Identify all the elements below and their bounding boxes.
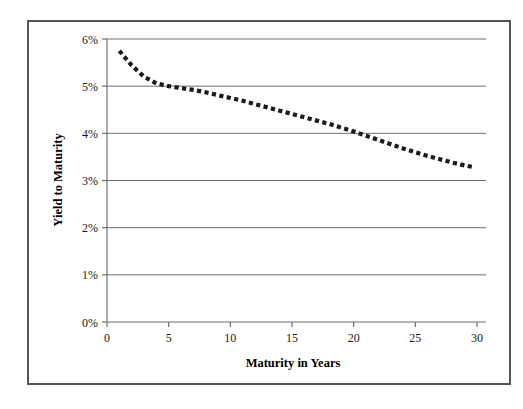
data-series-group (119, 51, 474, 168)
chart-figure: 051015202530 0%1%2%3%4%5%6% Maturity in … (0, 0, 523, 409)
x-tick-label-5: 5 (166, 331, 172, 345)
y-tick-label-4: 4% (82, 127, 98, 141)
x-tick-marks-group (107, 322, 477, 327)
gridlines-group (107, 39, 486, 275)
y-tick-label-6: 6% (82, 33, 98, 47)
y-tick-marks-group (102, 39, 107, 322)
yield-curve-chart: 051015202530 0%1%2%3%4%5%6% Maturity in … (0, 0, 523, 409)
x-tick-label-15: 15 (286, 331, 298, 345)
y-tick-label-3: 3% (82, 174, 98, 188)
y-tick-label-0: 0% (82, 316, 98, 330)
x-tick-label-25: 25 (409, 331, 421, 345)
y-tick-label-5: 5% (82, 80, 98, 94)
x-tick-labels-group: 051015202530 (104, 331, 483, 345)
x-tick-label-20: 20 (348, 331, 360, 345)
y-tick-labels-group: 0%1%2%3%4%5%6% (82, 33, 98, 330)
x-axis-title: Maturity in Years (246, 356, 341, 370)
x-tick-label-10: 10 (224, 331, 236, 345)
y-axis-title: Yield to Maturity (51, 133, 65, 227)
y-tick-label-1: 1% (82, 268, 98, 282)
series-line-0 (119, 51, 474, 168)
y-tick-label-2: 2% (82, 221, 98, 235)
x-tick-label-30: 30 (471, 331, 483, 345)
x-tick-label-0: 0 (104, 331, 110, 345)
